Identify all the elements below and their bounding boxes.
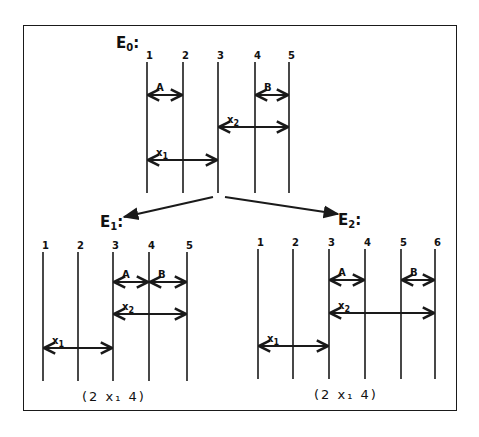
e1-line-label-4-text: 4 [148,240,155,251]
title-colon: : [117,213,123,231]
e1-line-label-3-text: 3 [112,240,119,251]
e1-segment-label-b: B [158,270,166,280]
e0-line-label-1: 1 [146,51,153,61]
e2-segment-label-a: A [338,268,346,278]
e2-caption-text: (2 x₁ 4) [314,387,378,402]
e2-segment-label-x1-subscript: 1 [273,338,279,347]
e0-segment-label-a: A [156,83,164,93]
e0-line-label-4: 4 [254,51,261,61]
e2-segment-label-x2-subscript: 2 [344,305,350,314]
title-e2: E2: [338,213,361,230]
title-e1: E1: [100,215,123,232]
title-e2-text: E [338,211,348,229]
e2-line-label-2: 2 [292,238,299,248]
e1-line-label-5-text: 5 [186,240,193,251]
e2-line-label-6: 6 [434,238,441,248]
e0-segment-label-b-text: B [264,82,272,93]
title-e0: E0: [116,36,139,53]
e1-segment-label-b-text: B [158,269,166,280]
e1-line-label-2-text: 2 [77,240,84,251]
e2-line-label-3: 3 [328,238,335,248]
e0-segment-label-b: B [264,83,272,93]
e2-segment-label-x2: x2 [338,301,350,314]
e0-line-label-2: 2 [182,51,189,61]
e0-segment-label-a-text: A [156,82,164,93]
e1-line-label-3: 3 [112,241,119,251]
e2-line-label-1: 1 [257,238,264,248]
e1-caption: (2 x₁ 4) [82,390,146,403]
e0-line-label-1-text: 1 [146,50,153,61]
e0-line-label-5: 5 [288,51,295,61]
e1-line-label-5: 5 [186,241,193,251]
e1-segment-label-a: A [122,270,130,280]
e2-line-label-2-text: 2 [292,237,299,248]
e2-segment-label-x1: x1 [267,334,279,347]
e1-segment-label-x1-subscript: 1 [58,340,64,349]
e2-segment-label-b: B [410,268,418,278]
e2-line-label-4: 4 [364,238,371,248]
e2-caption: (2 x₁ 4) [314,388,378,401]
e2-line-label-4-text: 4 [364,237,371,248]
e0-line-label-3-text: 3 [217,50,224,61]
e1-line-label-1-text: 1 [42,240,49,251]
e2-segment-label-a-text: A [338,267,346,278]
e1-segment-label-x2-subscript: 2 [128,306,134,315]
e2-segment-label-b-text: B [410,267,418,278]
e2-line-label-5-text: 5 [400,237,407,248]
title-colon: : [355,211,361,229]
title-colon: : [133,34,139,52]
e1-segment-label-x2: x2 [122,302,134,315]
title-e0-text: E [116,34,126,52]
branch-to-E2-arrow [225,197,338,214]
e1-segment-label-a-text: A [122,269,130,280]
e2-line-label-1-text: 1 [257,237,264,248]
diagram-canvas [0,0,479,437]
e0-line-label-3: 3 [217,51,224,61]
title-e1-text: E [100,213,110,231]
e2-line-label-3-text: 3 [328,237,335,248]
e0-segment-label-x1-subscript: 1 [162,152,168,161]
e0-line-label-5-text: 5 [288,50,295,61]
e0-segment-label-x2: x2 [227,115,239,128]
e2-line-label-5: 5 [400,238,407,248]
e1-line-label-2: 2 [77,241,84,251]
e0-line-label-2-text: 2 [182,50,189,61]
e1-segment-label-x1: x1 [52,336,64,349]
e2-line-label-6-text: 6 [434,237,441,248]
e0-segment-label-x1: x1 [156,148,168,161]
e1-line-label-1: 1 [42,241,49,251]
e0-line-label-4-text: 4 [254,50,261,61]
e0-segment-label-x2-subscript: 2 [233,119,239,128]
branch-to-E1-arrow [124,197,213,217]
e1-line-label-4: 4 [148,241,155,251]
e1-caption-text: (2 x₁ 4) [82,389,146,404]
